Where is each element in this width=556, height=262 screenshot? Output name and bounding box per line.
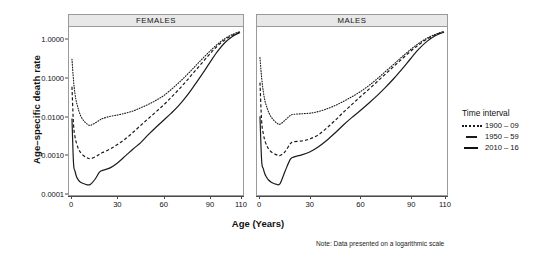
- x-axis-females: 0306090110: [68, 196, 244, 216]
- x-tick-mark: [210, 196, 211, 199]
- x-tick-label: 0: [69, 200, 73, 209]
- x-axis-title: Age (Years): [68, 218, 448, 229]
- series-line-dotted: [260, 31, 444, 124]
- plot-lines-females: [69, 27, 243, 195]
- x-tick-mark: [241, 196, 242, 199]
- x-axis-line-females: [68, 196, 244, 197]
- legend-title: Time interval: [462, 108, 554, 118]
- series-line-solid: [72, 32, 240, 185]
- x-tick-mark: [71, 196, 72, 199]
- x-tick-label: 30: [113, 200, 121, 209]
- x-tick-label: 110: [439, 200, 451, 209]
- panel-males: MALES: [256, 14, 448, 196]
- y-tick-label: 0.0010: [41, 151, 64, 160]
- panel-title-males: MALES: [338, 16, 367, 25]
- panel-strip-females: FEMALES: [68, 14, 244, 27]
- panel-females: FEMALES: [68, 14, 244, 196]
- y-tick-label: 0.0001: [41, 190, 64, 199]
- legend-key-dashed-icon: [462, 132, 482, 141]
- x-tick-mark: [310, 196, 311, 199]
- x-tick-label: 60: [159, 200, 167, 209]
- plot-area-females: [68, 27, 244, 196]
- figure-top-margin: [0, 0, 556, 6]
- series-line-dotted: [72, 32, 240, 126]
- figure-note: Note: Data presented on a logarithmic sc…: [316, 240, 444, 247]
- x-axis-males: 0306090110: [256, 196, 448, 216]
- y-tick-label: 0.1000: [41, 73, 64, 82]
- x-tick-label: 90: [407, 200, 415, 209]
- series-line-dashed: [260, 32, 444, 156]
- x-tick-mark: [164, 196, 165, 199]
- y-tick-label: 0.0100: [41, 112, 64, 121]
- legend-item-1950-59[interactable]: 1950 – 59: [462, 132, 554, 141]
- series-line-dashed: [72, 32, 240, 159]
- legend-label-1950-59: 1950 – 59: [485, 132, 519, 141]
- plot-area-males: [256, 27, 448, 196]
- x-tick-mark: [445, 196, 446, 199]
- legend-key-solid-icon: [462, 143, 482, 152]
- x-tick-label: 60: [356, 200, 364, 209]
- x-tick-mark: [360, 196, 361, 199]
- legend-label-2010-16: 2010 – 16: [485, 143, 519, 152]
- legend-key-dotted-icon: [462, 121, 482, 130]
- panel-title-females: FEMALES: [136, 16, 176, 25]
- x-tick-mark: [117, 196, 118, 199]
- panel-strip-males: MALES: [256, 14, 448, 27]
- x-axis-line-males: [256, 196, 448, 197]
- chart-figure: Age–specific death rate 1.00000.10000.01…: [0, 0, 556, 262]
- series-line-solid: [260, 32, 444, 185]
- plot-lines-males: [257, 27, 447, 195]
- x-tick-label: 0: [257, 200, 261, 209]
- legend-label-1900-09: 1900 – 09: [485, 121, 519, 130]
- y-axis-tick-labels: 1.00000.10000.01000.00100.0001: [26, 26, 68, 194]
- legend-item-2010-16[interactable]: 2010 – 16: [462, 143, 554, 152]
- legend-item-1900-09[interactable]: 1900 – 09: [462, 121, 554, 130]
- y-tick-label: 1.0000: [41, 35, 64, 44]
- x-tick-label: 30: [305, 200, 313, 209]
- x-tick-mark: [259, 196, 260, 199]
- x-tick-label: 110: [235, 200, 247, 209]
- x-tick-mark: [411, 196, 412, 199]
- x-tick-label: 90: [206, 200, 214, 209]
- legend: Time interval 1900 – 09 1950 – 59 2010 –…: [462, 108, 554, 154]
